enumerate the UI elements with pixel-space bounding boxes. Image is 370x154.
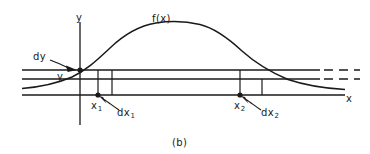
figure-caption: (b) <box>172 138 187 148</box>
figure-container: f(x) y x dy y x1 dx1 x2 dx2 (b) <box>0 0 370 154</box>
function-label: f(x) <box>152 14 171 24</box>
x2-label: x2 <box>234 101 245 111</box>
dx2-leader-line <box>246 100 261 111</box>
dx1-label-subscript: 1 <box>131 112 136 120</box>
dy-label: dy <box>33 52 46 62</box>
figure-drawing <box>0 0 370 154</box>
y-axis-label: y <box>76 13 82 23</box>
y-axis-dot <box>77 67 82 72</box>
x2-label-subscript: 2 <box>241 105 246 113</box>
x-axis-label: x <box>346 94 352 104</box>
dx1-label: dx1 <box>117 108 135 118</box>
y-value-label: y <box>57 72 63 82</box>
dx2-label: dx2 <box>261 108 279 118</box>
dx1-label-base: dx <box>117 107 130 118</box>
x1-label-subscript: 1 <box>98 105 103 113</box>
dy-arrowhead-icon <box>66 66 77 72</box>
dx2-label-base: dx <box>261 107 274 118</box>
dx2-label-subscript: 2 <box>275 112 280 120</box>
x1-label: x1 <box>91 101 102 111</box>
x2-label-base: x <box>234 100 240 111</box>
x2-dot <box>237 92 242 97</box>
x1-label-base: x <box>91 100 97 111</box>
